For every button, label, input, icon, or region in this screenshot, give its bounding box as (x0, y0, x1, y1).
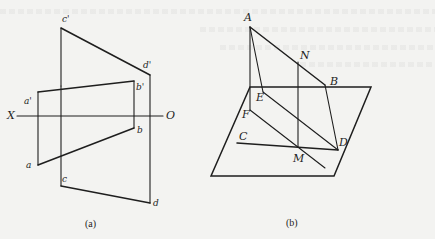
point-label-c-prime: c' (62, 15, 70, 24)
point-label-F: F (242, 109, 250, 120)
point-label-d-prime: d' (143, 61, 151, 70)
line-C-D (237, 143, 338, 150)
point-label-b: b (137, 126, 143, 135)
edge-B-D (325, 85, 338, 150)
edge-A-E (250, 27, 263, 92)
plane-parallelogram (211, 87, 371, 176)
figure-canvas: X O c' d' a' b' a b c d (a) A N B E F C … (0, 0, 435, 239)
point-label-D: D (339, 137, 348, 148)
caption-b: (b) (286, 218, 298, 228)
point-label-a-prime: a' (24, 97, 32, 106)
line-F-through-M (250, 110, 325, 168)
point-label-a: a (26, 161, 31, 170)
edge-E-D (263, 92, 338, 150)
axis-label-x: X (7, 110, 15, 121)
point-label-E: E (256, 92, 264, 103)
figure-b-drawing (0, 0, 435, 239)
axis-label-o: O (166, 110, 175, 121)
point-label-b-prime: b' (136, 83, 144, 92)
point-label-C: C (239, 131, 247, 142)
caption-a: (a) (85, 219, 96, 229)
point-label-B: B (330, 76, 338, 87)
point-label-A: A (244, 12, 252, 23)
point-label-M: M (293, 153, 304, 164)
point-label-d: d (153, 199, 159, 208)
edge-A-B (250, 27, 325, 85)
point-label-N: N (300, 50, 310, 61)
point-label-c: c (62, 175, 67, 184)
